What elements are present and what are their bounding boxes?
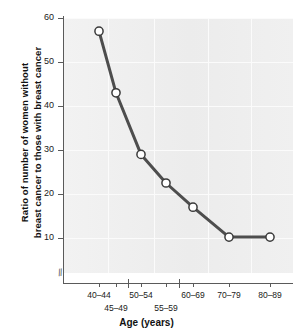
x-axis-tick-label: 45–49 bbox=[96, 303, 136, 313]
gridline-vertical bbox=[108, 18, 109, 273]
y-axis-tick-label: 50 bbox=[28, 56, 54, 66]
y-axis-line bbox=[63, 16, 64, 284]
y-axis-tick bbox=[58, 150, 63, 151]
y-axis-tick bbox=[58, 106, 63, 107]
gridline-horizontal bbox=[64, 150, 293, 151]
y-axis-tick-label: 30 bbox=[28, 144, 54, 154]
y-axis-tick-label: 60 bbox=[28, 12, 54, 22]
x-axis-tick-label: 40–44 bbox=[79, 290, 119, 300]
x-axis-tick-label: 60–69 bbox=[173, 290, 213, 300]
y-axis-tick bbox=[58, 238, 63, 239]
y-axis-tick bbox=[58, 18, 63, 19]
x-axis-group-separator bbox=[179, 279, 180, 288]
x-axis-tick bbox=[166, 283, 167, 287]
y-axis-tick-label: 10 bbox=[28, 232, 54, 242]
gridline-horizontal bbox=[64, 194, 293, 195]
x-axis-tick-label: 70–79 bbox=[209, 290, 249, 300]
chart-figure: Ratio of number of women without breast … bbox=[0, 0, 293, 336]
plot-area bbox=[64, 18, 293, 273]
x-axis-tick bbox=[116, 283, 117, 287]
gridline-vertical bbox=[251, 18, 252, 273]
gridline-vertical bbox=[154, 18, 155, 273]
gridline-horizontal bbox=[64, 106, 293, 107]
x-axis-tick bbox=[193, 283, 194, 287]
gridline-horizontal bbox=[64, 62, 293, 63]
y-axis-tick-label: 40 bbox=[28, 100, 54, 110]
x-axis-tick-label: 55–59 bbox=[146, 303, 186, 313]
axis-break-icon: // bbox=[57, 268, 63, 279]
x-axis-line bbox=[63, 283, 293, 284]
x-axis-tick-label: 80–89 bbox=[250, 290, 290, 300]
x-axis-tick bbox=[141, 283, 142, 287]
x-axis-group-separator bbox=[128, 279, 129, 288]
y-axis-tick-label: 20 bbox=[28, 188, 54, 198]
y-axis-tick bbox=[58, 62, 63, 63]
x-axis-tick-label: 50–54 bbox=[121, 290, 161, 300]
x-axis-tick bbox=[99, 283, 100, 287]
x-axis-title: Age (years) bbox=[0, 317, 293, 328]
x-axis-tick bbox=[229, 283, 230, 287]
gridline-horizontal bbox=[64, 18, 293, 19]
gridline-horizontal bbox=[64, 238, 293, 239]
y-axis-title-line1: Ratio of number of women without bbox=[19, 63, 30, 222]
x-axis-tick bbox=[270, 283, 271, 287]
gridline-vertical bbox=[208, 18, 209, 273]
y-axis-tick bbox=[58, 194, 63, 195]
